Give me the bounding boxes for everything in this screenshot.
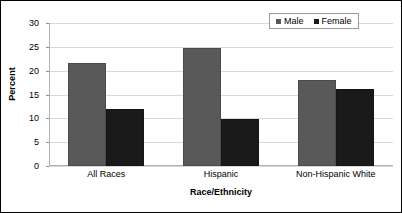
bar-group	[278, 23, 393, 166]
bar-female[interactable]	[106, 109, 144, 166]
y-axis-tick-label: 10	[9, 113, 39, 123]
legend-swatch-icon	[276, 19, 281, 24]
legend-item-female[interactable]: Female	[314, 16, 352, 26]
gridline	[49, 166, 393, 167]
bar-female[interactable]	[221, 119, 259, 166]
bar-male[interactable]	[183, 48, 221, 166]
bar-chart: Percent 051015202530 All RacesHispanicNo…	[0, 0, 402, 213]
x-axis-tick-label: Non-Hispanic White	[278, 169, 393, 179]
y-axis-tick-label: 30	[9, 18, 39, 28]
bar-group	[49, 23, 164, 166]
y-axis-tick-label: 5	[9, 137, 39, 147]
legend-swatch-icon	[314, 19, 319, 24]
bar-male[interactable]	[68, 63, 106, 166]
x-axis-tick-label: Hispanic	[164, 169, 279, 179]
x-axis-title: Race/Ethnicity	[49, 187, 393, 197]
y-axis-tick-label: 0	[9, 161, 39, 171]
plot-area	[49, 23, 393, 166]
y-axis-tick-label: 25	[9, 42, 39, 52]
bar-group	[164, 23, 279, 166]
legend-label: Male	[284, 16, 304, 26]
legend-item-male[interactable]: Male	[276, 16, 304, 26]
bar-male[interactable]	[298, 80, 336, 166]
y-axis-tick-label: 20	[9, 66, 39, 76]
legend-label: Female	[322, 16, 352, 26]
y-axis-tick-label: 15	[9, 90, 39, 100]
bar-female[interactable]	[336, 89, 374, 166]
bar-groups	[49, 23, 393, 166]
x-axis-tick-labels: All RacesHispanicNon-Hispanic White	[49, 169, 393, 179]
chart-legend: MaleFemale	[269, 13, 359, 29]
x-axis-tick-label: All Races	[49, 169, 164, 179]
